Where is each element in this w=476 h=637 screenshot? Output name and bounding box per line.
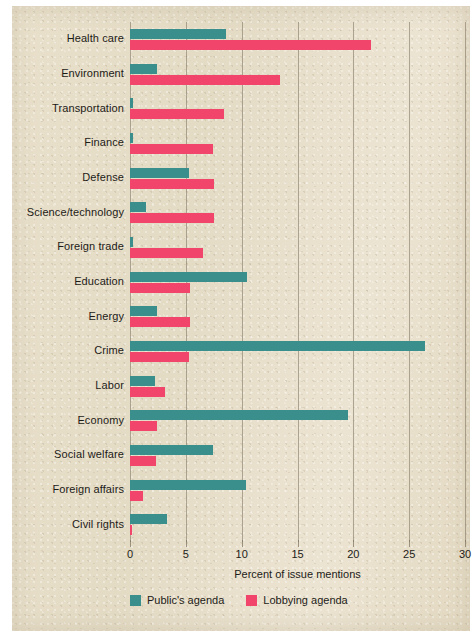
bar-lobbying-8	[130, 317, 190, 327]
gridline-10	[242, 22, 243, 542]
category-axis-labels: Health careEnvironmentTransportationFina…	[12, 22, 124, 542]
tickmark-25	[409, 540, 410, 547]
bar-public-7	[130, 272, 247, 282]
plot-area	[130, 22, 465, 542]
bar-lobbying-4	[130, 179, 214, 189]
category-label-4: Defense	[82, 171, 124, 183]
category-label-7: Education	[74, 275, 124, 287]
category-label-2: Transportation	[52, 102, 124, 114]
legend-swatch-public	[130, 595, 141, 606]
tickmark-10	[242, 540, 243, 547]
bar-public-9	[130, 341, 425, 351]
tickmark-20	[353, 540, 354, 547]
bar-lobbying-7	[130, 283, 190, 293]
category-label-14: Civil rights	[72, 518, 124, 530]
tickmark-30	[465, 540, 466, 547]
bar-public-10	[130, 376, 155, 386]
category-label-1: Environment	[61, 67, 124, 79]
bar-lobbying-13	[130, 491, 143, 501]
chart-panel: Health careEnvironmentTransportationFina…	[12, 6, 470, 631]
chart-legend: Public's agenda Lobbying agenda	[130, 594, 348, 606]
bar-lobbying-3	[130, 144, 213, 154]
legend-label-lobbying: Lobbying agenda	[263, 594, 347, 606]
category-label-9: Crime	[94, 344, 124, 356]
bar-public-5	[130, 202, 146, 212]
bar-lobbying-9	[130, 352, 189, 362]
bar-public-11	[130, 410, 348, 420]
category-label-13: Foreign affairs	[52, 483, 124, 495]
category-label-12: Social welfare	[54, 448, 124, 460]
category-label-3: Finance	[84, 136, 124, 148]
bar-public-14	[130, 514, 167, 524]
bar-lobbying-10	[130, 387, 165, 397]
bar-public-6	[130, 237, 133, 247]
category-label-10: Labor	[95, 379, 124, 391]
legend-swatch-lobbying	[246, 595, 257, 606]
bar-public-12	[130, 445, 213, 455]
x-tick-label-10: 10	[236, 548, 248, 560]
bar-lobbying-11	[130, 421, 157, 431]
tickmark-5	[186, 540, 187, 547]
bar-public-8	[130, 306, 157, 316]
category-label-8: Energy	[89, 310, 124, 322]
gridline-30	[465, 22, 466, 542]
category-label-0: Health care	[67, 32, 124, 44]
bar-lobbying-14	[130, 525, 132, 535]
x-tick-label-30: 30	[459, 548, 471, 560]
bar-public-4	[130, 168, 189, 178]
bar-public-0	[130, 29, 226, 39]
bar-lobbying-5	[130, 213, 214, 223]
category-label-5: Science/technology	[27, 206, 124, 218]
gridline-25	[409, 22, 410, 542]
legend-item-public: Public's agenda	[130, 594, 224, 606]
x-tick-label-25: 25	[403, 548, 415, 560]
x-axis-title: Percent of issue mentions	[130, 568, 465, 580]
category-label-11: Economy	[77, 414, 124, 426]
gridline-15	[298, 22, 299, 542]
bar-lobbying-0	[130, 40, 371, 50]
bar-public-3	[130, 133, 133, 143]
bar-lobbying-6	[130, 248, 203, 258]
legend-item-lobbying: Lobbying agenda	[246, 594, 347, 606]
tickmark-15	[298, 540, 299, 547]
bar-lobbying-2	[130, 109, 224, 119]
x-tick-label-20: 20	[347, 548, 359, 560]
x-tick-label-5: 5	[183, 548, 189, 560]
category-label-6: Foreign trade	[57, 240, 124, 252]
tickmark-0	[130, 540, 131, 547]
bar-lobbying-12	[130, 456, 156, 466]
bar-public-1	[130, 64, 157, 74]
legend-label-public: Public's agenda	[147, 594, 224, 606]
x-axis-ticks: 051015202530	[130, 548, 465, 564]
bar-public-2	[130, 98, 133, 108]
bar-lobbying-1	[130, 75, 280, 85]
gridline-20	[353, 22, 354, 542]
bar-public-13	[130, 480, 246, 490]
x-tick-label-15: 15	[291, 548, 303, 560]
x-tick-label-0: 0	[127, 548, 133, 560]
